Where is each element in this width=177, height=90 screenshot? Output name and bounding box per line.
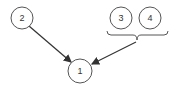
edge-group-to-1 [92,42,136,64]
node-label: 2 [19,13,24,23]
node-4[interactable]: 4 [139,7,161,29]
group-brace [107,31,168,40]
node-2[interactable]: 2 [11,7,33,29]
edge-2-to-1 [29,26,71,62]
node-label: 4 [147,13,152,23]
node-label: 1 [77,66,82,76]
node-label: 3 [118,13,123,23]
node-3[interactable]: 3 [110,7,132,29]
node-1[interactable]: 1 [68,59,92,83]
diagram-canvas: 2 3 4 1 [0,0,177,90]
